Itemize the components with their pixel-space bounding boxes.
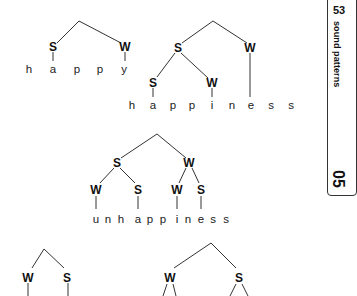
segment: p bbox=[160, 213, 166, 225]
tree-unhappiness: S W W S W S u n h a p p i n e s s bbox=[90, 134, 229, 225]
segment: p bbox=[189, 99, 195, 111]
node-weak: W bbox=[22, 271, 34, 285]
node-strong: S bbox=[174, 41, 182, 55]
segment: a bbox=[135, 213, 142, 225]
node-strong: S bbox=[149, 76, 157, 90]
node-weak: W bbox=[206, 76, 218, 90]
segment: e bbox=[248, 99, 254, 111]
segment: n bbox=[105, 213, 111, 225]
segment: n bbox=[229, 99, 235, 111]
segment: p bbox=[74, 63, 80, 75]
segment: s bbox=[288, 99, 294, 111]
tree-branches bbox=[179, 168, 199, 183]
segment: y bbox=[121, 63, 127, 75]
node-weak: W bbox=[183, 156, 195, 170]
segment: a bbox=[50, 63, 57, 75]
node-strong: S bbox=[134, 183, 142, 197]
segment: p bbox=[97, 63, 103, 75]
tree-branches bbox=[32, 249, 64, 268]
node-strong: S bbox=[49, 40, 57, 54]
segment: s bbox=[223, 213, 229, 225]
node-strong: S bbox=[197, 183, 205, 197]
node-strong: S bbox=[63, 271, 71, 285]
tree-partial-right: W S bbox=[163, 243, 248, 296]
tree-branches bbox=[121, 134, 186, 158]
tree-happy: S W h a p p y bbox=[26, 21, 132, 75]
node-weak: W bbox=[119, 40, 131, 54]
segment: n bbox=[185, 213, 191, 225]
node-strong: S bbox=[113, 156, 121, 170]
section-title: sound patterns bbox=[332, 21, 342, 87]
tree-branches bbox=[182, 21, 247, 43]
segment: i bbox=[211, 99, 214, 111]
segment: u bbox=[93, 213, 99, 225]
node-weak: W bbox=[164, 271, 176, 285]
segment: a bbox=[150, 99, 157, 111]
page-number: 53 bbox=[328, 4, 350, 16]
segment: i bbox=[176, 213, 179, 225]
segment: p bbox=[147, 213, 153, 225]
tree-branches bbox=[57, 21, 121, 43]
tree-branches bbox=[230, 284, 248, 296]
segment: p bbox=[170, 99, 176, 111]
segment: h bbox=[129, 99, 135, 111]
node-weak: W bbox=[244, 41, 256, 55]
segment: s bbox=[210, 213, 216, 225]
node-strong: S bbox=[235, 271, 243, 285]
tree-branches bbox=[163, 284, 176, 296]
tree-happiness: S W S W h a p p i n e s s bbox=[129, 21, 294, 111]
segment: h bbox=[118, 213, 124, 225]
segment: e bbox=[198, 213, 204, 225]
segment: s bbox=[268, 99, 274, 111]
tree-partial-left: W S bbox=[22, 249, 71, 296]
node-weak: W bbox=[171, 183, 183, 197]
tree-branches bbox=[174, 243, 236, 268]
chapter-number: 05 bbox=[329, 170, 347, 188]
segment: h bbox=[26, 63, 32, 75]
tree-branches bbox=[100, 168, 135, 183]
node-weak: W bbox=[90, 183, 102, 197]
tree-branches bbox=[157, 53, 208, 78]
